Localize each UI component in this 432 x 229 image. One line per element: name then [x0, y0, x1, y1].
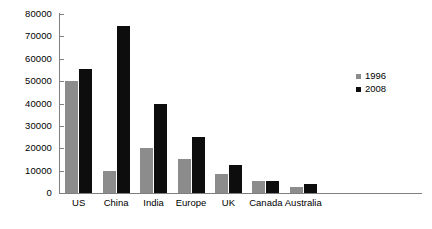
- bar-chart: 0100002000030000400005000060000700008000…: [0, 0, 432, 229]
- bar-group: [65, 14, 92, 193]
- bar-group: [290, 14, 317, 193]
- legend-label: 2008: [365, 83, 386, 95]
- y-axis-tick-label: 80000: [2, 9, 52, 19]
- legend-entry-2008: 2008: [356, 83, 386, 95]
- bar-australia-1996: [290, 187, 303, 193]
- y-axis-tick-mark: [60, 59, 64, 60]
- x-axis-label-india: India: [135, 197, 172, 208]
- x-axis-label-us: US: [60, 197, 97, 208]
- bar-group: [140, 14, 167, 193]
- bar-australia-2008: [304, 184, 317, 193]
- y-axis-tick-mark: [60, 36, 64, 37]
- bar-europe-1996: [178, 159, 191, 193]
- y-axis-tick-mark: [60, 193, 64, 194]
- y-axis-tick-label: 60000: [2, 54, 52, 64]
- y-axis-tick-mark: [60, 126, 64, 127]
- bar-group: [252, 14, 279, 193]
- bar-china-2008: [117, 26, 130, 193]
- bar-china-1996: [103, 171, 116, 193]
- x-axis-label-australia: Australia: [285, 197, 322, 208]
- y-axis-tick-label: 10000: [2, 166, 52, 176]
- y-axis-tick-mark: [60, 148, 64, 149]
- y-axis-tick-label: 0: [2, 188, 52, 198]
- bar-us-1996: [65, 81, 78, 193]
- bar-india-1996: [140, 148, 153, 193]
- bar-group: [178, 14, 205, 193]
- legend-swatch-1996-icon: [356, 74, 361, 79]
- bar-group: [215, 14, 242, 193]
- x-axis-label-uk: UK: [210, 197, 247, 208]
- bar-canada-1996: [252, 181, 265, 193]
- x-axis-label-europe: Europe: [172, 197, 209, 208]
- plot-area: 0100002000030000400005000060000700008000…: [60, 14, 322, 193]
- bar-india-2008: [154, 104, 167, 194]
- legend-swatch-2008-icon: [356, 87, 361, 92]
- x-axis-label-china: China: [97, 197, 134, 208]
- bar-canada-2008: [266, 181, 279, 193]
- y-axis-tick-label: 30000: [2, 121, 52, 131]
- y-axis-tick-mark: [60, 14, 64, 15]
- bar-europe-2008: [192, 137, 205, 193]
- legend-label: 1996: [365, 70, 386, 82]
- y-axis-tick-label: 20000: [2, 143, 52, 153]
- bar-uk-2008: [229, 165, 242, 193]
- bar-us-2008: [79, 69, 92, 193]
- x-axis-label-canada: Canada: [247, 197, 284, 208]
- y-axis-tick-mark: [60, 81, 64, 82]
- y-axis-tick-label: 70000: [2, 31, 52, 41]
- y-axis-tick-mark: [60, 104, 64, 105]
- bar-uk-1996: [215, 174, 228, 193]
- chart-legend: 19962008: [356, 70, 386, 96]
- y-axis-tick-label: 50000: [2, 76, 52, 86]
- y-axis-tick-mark: [60, 171, 64, 172]
- y-axis-tick-label: 40000: [2, 99, 52, 109]
- bar-group: [103, 14, 130, 193]
- legend-entry-1996: 1996: [356, 70, 386, 82]
- x-axis-line: [59, 193, 422, 194]
